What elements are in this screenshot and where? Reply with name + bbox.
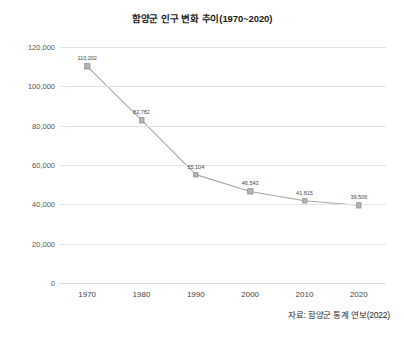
data-point-label: 110,202 bbox=[57, 55, 117, 61]
population-line-chart: 함양군 인구 변화 추이(1970~2020) 110,20282,78255,… bbox=[0, 0, 404, 339]
data-point-marker bbox=[84, 64, 89, 69]
y-axis-tick-label: 120,000 bbox=[0, 43, 55, 52]
data-point-marker bbox=[356, 203, 361, 208]
y-axis-tick-label: 80,000 bbox=[0, 121, 55, 130]
y-axis-tick-label: 0 bbox=[0, 279, 55, 288]
data-point-marker bbox=[193, 172, 198, 177]
x-axis-tick-label: 1980 bbox=[112, 290, 172, 299]
x-axis-tick-label: 2020 bbox=[329, 290, 389, 299]
plot-area: 110,20282,78255,10446,54341,81539,506 bbox=[60, 47, 386, 283]
y-axis-tick-label: 60,000 bbox=[0, 161, 55, 170]
data-point-marker bbox=[139, 117, 144, 122]
data-point-label: 82,782 bbox=[112, 109, 172, 115]
data-point-label: 39,506 bbox=[329, 194, 389, 200]
data-point-label: 55,104 bbox=[166, 164, 226, 170]
data-point-label: 41,815 bbox=[275, 190, 335, 196]
chart-title: 함양군 인구 변화 추이(1970~2020) bbox=[0, 11, 404, 25]
data-point-label: 46,543 bbox=[220, 180, 280, 186]
gridline bbox=[60, 47, 386, 48]
x-axis-tick-label: 1970 bbox=[57, 290, 117, 299]
y-axis-tick-label: 20,000 bbox=[0, 239, 55, 248]
gridline bbox=[60, 244, 386, 245]
gridline bbox=[60, 86, 386, 87]
x-axis-tick-label: 2010 bbox=[275, 290, 335, 299]
y-axis-tick-label: 100,000 bbox=[0, 82, 55, 91]
gridline bbox=[60, 126, 386, 127]
data-point-marker bbox=[247, 189, 252, 194]
x-axis-tick-label: 1990 bbox=[166, 290, 226, 299]
source-note: 자료: 함양군 통계 연보(2022) bbox=[288, 308, 390, 320]
gridline bbox=[60, 283, 386, 284]
gridline bbox=[60, 204, 386, 205]
y-axis-tick-label: 40,000 bbox=[0, 200, 55, 209]
x-axis-tick-label: 2000 bbox=[220, 290, 280, 299]
data-point-marker bbox=[302, 198, 307, 203]
